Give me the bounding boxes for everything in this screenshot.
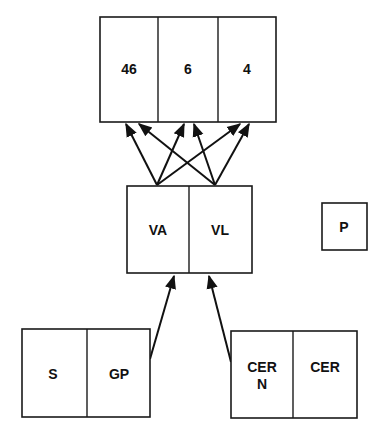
cer-n-label-line2: N <box>257 376 267 392</box>
area-4-label: 4 <box>243 61 251 77</box>
subcortical-arrows <box>150 276 231 362</box>
bottom-right-box: CER N CER <box>231 331 357 418</box>
cer-label: CER <box>310 359 340 375</box>
bottom-left-box-frame <box>22 329 150 417</box>
arrow-va-to-46 <box>126 124 157 185</box>
middle-box: VA VL <box>127 186 252 273</box>
area-46-label: 46 <box>121 61 137 77</box>
va-label: VA <box>149 222 167 238</box>
diagram-canvas: 46 6 4 VA VL P S GP CER N <box>0 0 383 439</box>
p-box: P <box>322 203 367 250</box>
bottom-left-box: S GP <box>22 329 150 417</box>
arrow-vl-to-4 <box>215 124 249 185</box>
arrow-cern-to-vl <box>209 276 231 362</box>
vl-label: VL <box>211 222 229 238</box>
s-label: S <box>48 366 57 382</box>
cer-n-label-line1: CER <box>247 359 277 375</box>
thalamocortical-arrows <box>126 124 249 185</box>
top-box: 46 6 4 <box>100 17 276 122</box>
p-label: P <box>339 219 348 235</box>
gp-label: GP <box>109 366 129 382</box>
arrow-gp-to-va <box>150 276 174 359</box>
area-6-label: 6 <box>184 61 192 77</box>
